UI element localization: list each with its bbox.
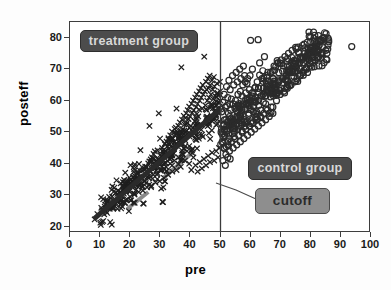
treatment-point: [197, 159, 202, 164]
treatment-point: [199, 166, 204, 171]
treatment-point: [195, 169, 200, 174]
x-tick-mark: [370, 232, 371, 237]
control-point: [325, 46, 331, 52]
x-tick-label-10: 10: [93, 238, 105, 250]
x-tick-mark: [159, 232, 160, 237]
treatment-point: [202, 54, 207, 59]
x-tick-mark: [340, 232, 341, 237]
control-point: [349, 44, 355, 50]
control-point: [261, 54, 267, 60]
x-tick-label-50: 50: [213, 238, 225, 250]
control-group-label: control group: [248, 157, 352, 180]
y-tick-mark: [64, 194, 69, 195]
x-tick-label-70: 70: [274, 238, 286, 250]
treatment-point: [203, 163, 208, 168]
y-tick-label-30: 30: [40, 188, 62, 200]
x-tick-mark: [99, 232, 100, 237]
treatment-point: [147, 123, 152, 128]
y-tick-label-70: 70: [40, 62, 62, 74]
chart-root: 0102030405060708090100 80706050403020 pr…: [0, 0, 391, 290]
treatment-point: [157, 136, 162, 141]
control-point: [257, 60, 263, 66]
x-tick-mark: [250, 232, 251, 237]
x-axis-title: pre: [0, 262, 391, 277]
treatment-point: [189, 167, 194, 172]
x-tick-mark: [220, 232, 221, 237]
y-tick-mark: [64, 226, 69, 227]
x-tick-label-20: 20: [123, 238, 135, 250]
treatment-point: [191, 155, 196, 160]
y-tick-label-20: 20: [40, 220, 62, 232]
x-tick-mark: [129, 232, 130, 237]
treatment-point: [138, 147, 143, 152]
x-tick-label-100: 100: [361, 238, 379, 250]
x-tick-mark: [189, 232, 190, 237]
x-tick-label-40: 40: [183, 238, 195, 250]
y-tick-label-40: 40: [40, 157, 62, 169]
treatment-point: [174, 106, 179, 111]
treatment-point: [201, 156, 206, 161]
cutoff-label: cutoff: [255, 188, 330, 214]
y-tick-label-80: 80: [40, 31, 62, 43]
x-tick-label-80: 80: [304, 238, 316, 250]
treatment-point: [207, 136, 212, 141]
y-tick-mark: [64, 163, 69, 164]
treatment-point: [160, 199, 165, 204]
treatment-point: [98, 195, 103, 200]
treatment-point: [194, 146, 199, 151]
y-tick-label-60: 60: [40, 94, 62, 106]
treatment-point: [107, 219, 112, 224]
treatment-group-label: treatment group: [80, 30, 198, 52]
treatment-point: [187, 125, 192, 130]
y-tick-mark: [64, 100, 69, 101]
treatment-point: [186, 161, 191, 166]
treatment-point: [156, 111, 161, 116]
x-tick-label-30: 30: [153, 238, 165, 250]
control-point: [248, 37, 254, 43]
control-point: [249, 66, 255, 72]
control-point: [255, 37, 261, 43]
x-tick-label-90: 90: [334, 238, 346, 250]
y-axis-title: posteff: [16, 59, 31, 149]
treatment-point: [179, 65, 184, 70]
x-tick-label-60: 60: [243, 238, 255, 250]
y-tick-mark: [64, 37, 69, 38]
x-tick-mark: [280, 232, 281, 237]
y-tick-mark: [64, 68, 69, 69]
treatment-point: [205, 153, 210, 158]
y-tick-mark: [64, 131, 69, 132]
treatment-point: [161, 185, 166, 190]
x-tick-mark: [69, 232, 70, 237]
x-tick-mark: [310, 232, 311, 237]
y-tick-label-50: 50: [40, 125, 62, 137]
treatment-point: [141, 201, 146, 206]
treatment-point: [206, 130, 211, 135]
x-tick-label-0: 0: [66, 238, 72, 250]
